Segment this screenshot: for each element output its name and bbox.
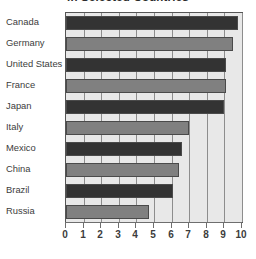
tick-mark — [241, 222, 242, 228]
tick-label: 6 — [168, 230, 174, 240]
tick-label: 10 — [235, 230, 246, 240]
tick-mark — [135, 222, 136, 228]
tick-label: 7 — [185, 230, 191, 240]
plot-area — [65, 12, 243, 223]
bar — [66, 121, 189, 135]
category-label: Brazil — [0, 185, 59, 194]
category-label: Germany — [0, 38, 59, 47]
category-label: Russia — [0, 206, 59, 215]
bar — [66, 163, 179, 177]
tick-mark — [223, 222, 224, 228]
tick-mark — [171, 222, 172, 228]
value-axis: 012345678910 — [65, 222, 241, 252]
bar — [66, 79, 226, 93]
category-label: Italy — [0, 122, 59, 131]
tick-mark — [100, 222, 101, 228]
bar — [66, 16, 238, 30]
tick-label: 2 — [97, 230, 103, 240]
bar — [66, 205, 149, 219]
category-label: United States — [0, 59, 59, 68]
tick-label: 0 — [62, 230, 68, 240]
category-label: France — [0, 80, 59, 89]
tick-mark — [188, 222, 189, 228]
bar-series — [66, 13, 242, 222]
gridline — [242, 13, 243, 222]
tick-mark — [206, 222, 207, 228]
tick-label: 5 — [150, 230, 156, 240]
tick-mark — [65, 222, 66, 228]
tick-mark — [153, 222, 154, 228]
category-label: Canada — [0, 17, 59, 26]
tick-label: 9 — [220, 230, 226, 240]
tick-mark — [83, 222, 84, 228]
category-label: China — [0, 164, 59, 173]
bar — [66, 100, 224, 114]
category-label: Mexico — [0, 143, 59, 152]
tick-label: 1 — [80, 230, 86, 240]
bar — [66, 37, 233, 51]
category-axis: CanadaGermanyUnited StatesFranceJapanIta… — [0, 12, 63, 221]
tick-label: 8 — [203, 230, 209, 240]
tick-mark — [118, 222, 119, 228]
chart-title: in Selected Countries — [0, 0, 256, 3]
tick-label: 4 — [132, 230, 138, 240]
bar — [66, 184, 173, 198]
tick-label: 3 — [115, 230, 121, 240]
bar — [66, 58, 226, 72]
category-label: Japan — [0, 101, 59, 110]
bar — [66, 142, 182, 156]
bar-chart: in Selected Countries CanadaGermanyUnite… — [0, 0, 256, 259]
